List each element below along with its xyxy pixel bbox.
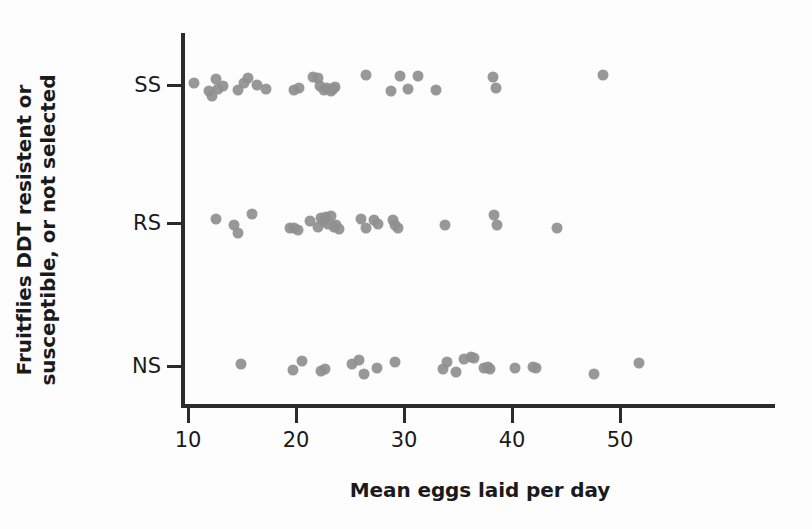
data-point <box>440 220 451 231</box>
data-point <box>372 363 383 374</box>
x-axis-label: Mean eggs laid per day <box>184 478 776 502</box>
data-point <box>325 211 336 222</box>
data-point <box>347 359 358 370</box>
x-tick-mark <box>619 408 622 423</box>
data-point <box>373 219 384 230</box>
y-tick-label-ns: NS <box>101 354 161 378</box>
data-point <box>284 223 295 234</box>
data-point <box>260 84 271 95</box>
data-point <box>322 83 333 94</box>
data-point <box>487 72 498 83</box>
data-point <box>359 369 370 380</box>
data-point <box>465 352 476 363</box>
data-point <box>597 70 608 81</box>
data-point <box>189 78 200 89</box>
data-point <box>320 364 331 375</box>
y-tick-mark <box>167 222 183 225</box>
x-tick-label: 20 <box>266 428 326 452</box>
data-point <box>206 91 217 102</box>
y-tick-mark <box>167 365 183 368</box>
data-point <box>634 358 645 369</box>
data-point <box>386 86 397 97</box>
data-point <box>315 213 326 224</box>
data-point <box>321 212 332 223</box>
data-point <box>305 216 316 227</box>
x-tick-label: 50 <box>590 428 650 452</box>
data-point <box>485 364 496 375</box>
data-point <box>552 223 563 234</box>
data-point <box>213 84 224 95</box>
data-point <box>297 356 308 367</box>
x-tick-label: 30 <box>374 428 434 452</box>
data-point <box>431 85 442 96</box>
data-point <box>437 364 448 375</box>
data-point <box>252 80 263 91</box>
data-point <box>308 72 319 83</box>
data-point <box>327 84 338 95</box>
data-point <box>329 82 340 93</box>
x-tick-mark <box>511 408 514 423</box>
data-point <box>325 86 336 97</box>
data-point <box>530 363 541 374</box>
x-tick-mark <box>187 408 190 423</box>
y-tick-mark <box>167 84 183 87</box>
data-point <box>312 73 323 84</box>
data-point <box>488 210 499 221</box>
data-point <box>323 219 334 230</box>
y-axis-label: Fruitflies DDT resistent or susceptible,… <box>0 20 72 440</box>
data-point <box>232 85 243 96</box>
data-point <box>388 215 399 226</box>
data-point <box>483 362 494 373</box>
data-point <box>368 215 379 226</box>
data-point <box>315 366 326 377</box>
data-point <box>229 220 240 231</box>
data-point <box>413 71 424 82</box>
data-point <box>328 222 339 233</box>
data-point <box>232 228 243 239</box>
data-point <box>288 85 299 96</box>
data-point <box>491 220 502 231</box>
data-point <box>243 73 254 84</box>
data-point <box>390 220 401 231</box>
data-point <box>293 225 304 236</box>
data-point <box>355 214 366 225</box>
x-tick-mark <box>295 408 298 423</box>
data-point <box>239 78 250 89</box>
data-point <box>312 222 323 233</box>
data-point <box>361 223 372 234</box>
data-point <box>246 209 257 220</box>
data-point <box>450 367 461 378</box>
data-point <box>459 354 470 365</box>
data-point <box>490 83 501 94</box>
data-point <box>527 362 538 373</box>
data-point <box>235 359 246 370</box>
data-point <box>334 224 345 235</box>
data-point <box>469 353 480 364</box>
x-axis-spine <box>181 404 775 408</box>
data-point <box>589 369 600 380</box>
scatter-plot-figure: Fruitflies DDT resistent or susceptible,… <box>0 0 812 529</box>
x-tick-label: 10 <box>158 428 218 452</box>
data-point <box>319 216 330 227</box>
x-tick-mark <box>403 408 406 423</box>
y-axis-spine <box>181 33 185 408</box>
data-point <box>353 355 364 366</box>
data-point <box>361 70 372 81</box>
data-point <box>211 214 222 225</box>
data-point <box>392 223 403 234</box>
data-point <box>203 86 214 97</box>
data-point <box>319 85 330 96</box>
data-point <box>287 365 298 376</box>
x-tick-label: 40 <box>482 428 542 452</box>
data-point <box>217 81 228 92</box>
data-point <box>211 74 222 85</box>
data-point <box>510 363 521 374</box>
data-point <box>478 363 489 374</box>
data-point <box>403 84 414 95</box>
data-point <box>294 83 305 94</box>
data-point <box>330 220 341 231</box>
y-tick-label-rs: RS <box>101 211 161 235</box>
data-point <box>442 357 453 368</box>
y-tick-label-ss: SS <box>101 73 161 97</box>
data-point <box>394 71 405 82</box>
